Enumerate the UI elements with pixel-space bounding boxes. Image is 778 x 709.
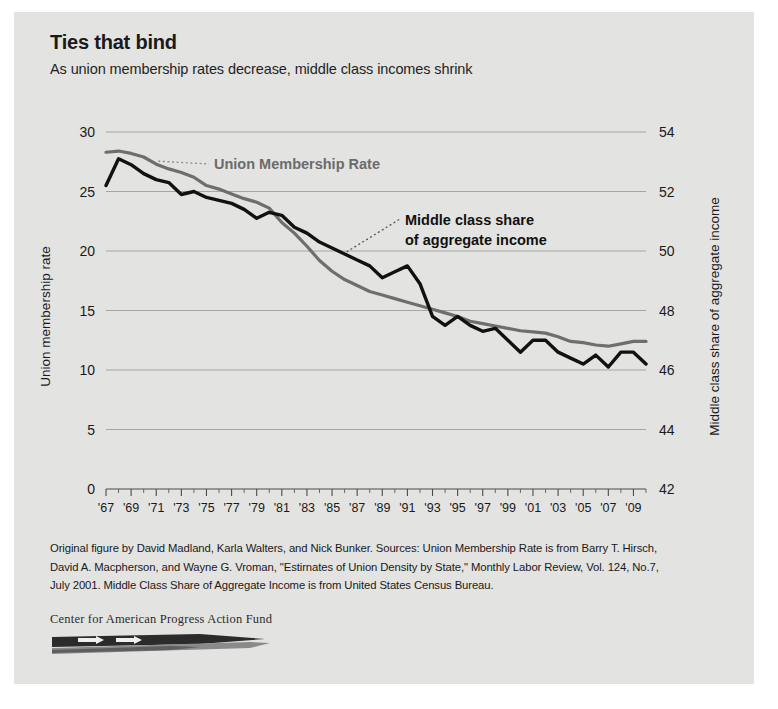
y-axis-tick-label: 15 — [79, 303, 95, 319]
x-axis-tick-label: '83 — [299, 501, 315, 515]
x-axis-tick-label: '71 — [148, 501, 164, 515]
y2-axis-tick-label: 48 — [659, 303, 675, 319]
x-axis-tick-label: '99 — [500, 501, 516, 515]
x-axis-tick-label: '79 — [249, 501, 265, 515]
x-axis-tick-label: '77 — [223, 501, 239, 515]
x-axis-tick-label: '01 — [525, 501, 541, 515]
x-axis-tick-label: '73 — [173, 501, 189, 515]
figure-container: Ties that bind As union membership rates… — [14, 12, 754, 684]
x-axis-tick-label: '75 — [198, 501, 214, 515]
x-axis-tick-label: '81 — [274, 501, 290, 515]
x-axis-tick-label: '69 — [123, 501, 139, 515]
y-axis-tick-label: 0 — [87, 481, 95, 497]
figure-inner: Ties that bind As union membership rates… — [14, 12, 754, 684]
series-line-2 — [106, 159, 646, 367]
x-axis-tick-label: '97 — [475, 501, 491, 515]
y-axis-tick-label: 10 — [79, 362, 95, 378]
flag-logo-icon — [50, 629, 290, 659]
y-axis-title: Union membership rate — [38, 246, 53, 386]
middle-class-share-label-line-1: Middle class share — [405, 212, 534, 228]
source-note: Original figure by David Madland, Karla … — [50, 539, 705, 595]
union-label-leader-line — [158, 161, 209, 164]
y2-axis-tick-label: 50 — [659, 243, 675, 259]
y2-axis-tick-label: 46 — [659, 362, 675, 378]
x-axis-tick-label: '07 — [600, 501, 616, 515]
source-note-line-2: David A. Macpherson, and Wayne G. Vroman… — [50, 558, 705, 577]
x-axis-tick-label: '93 — [424, 501, 440, 515]
source-note-line-3: July 2001. Middle Class Share of Aggrega… — [50, 576, 705, 595]
x-axis-tick-label: '89 — [374, 501, 390, 515]
union-membership-rate-label: Union Membership Rate — [214, 156, 380, 172]
source-note-line-1: Original figure by David Madland, Karla … — [50, 539, 705, 558]
middle-class-share-label-line-2: of aggregate income — [405, 232, 547, 248]
series-line-1 — [106, 151, 646, 346]
logo-label: Center for American Progress Action Fund — [50, 612, 272, 627]
organization-logo: Center for American Progress Action Fund — [50, 612, 290, 660]
y-axis-tick-label: 5 — [87, 422, 95, 438]
middle-class-label-leader-line — [347, 219, 400, 252]
x-axis-tick-label: '91 — [399, 501, 415, 515]
y2-axis-tick-label: 44 — [659, 422, 675, 438]
y2-axis-tick-label: 52 — [659, 184, 675, 200]
y-axis-tick-label: 25 — [79, 184, 95, 200]
x-axis-tick-label: '67 — [98, 501, 114, 515]
x-axis-tick-label: '85 — [324, 501, 340, 515]
y-axis-tick-label: 20 — [79, 243, 95, 259]
y2-axis-tick-label: 42 — [659, 481, 675, 497]
y2-axis-tick-label: 54 — [659, 124, 675, 140]
y-axis-tick-label: 30 — [79, 124, 95, 140]
x-axis-tick-label: '05 — [575, 501, 591, 515]
y2-axis-title: Middle class share of aggregate income — [707, 197, 722, 436]
x-axis-tick-label: '87 — [349, 501, 365, 515]
line-chart: 05101520253042444648505254Union membersh… — [14, 12, 754, 532]
x-axis-tick-label: '95 — [449, 501, 465, 515]
x-axis-tick-label: '03 — [550, 501, 566, 515]
x-axis-tick-label: '09 — [625, 501, 641, 515]
